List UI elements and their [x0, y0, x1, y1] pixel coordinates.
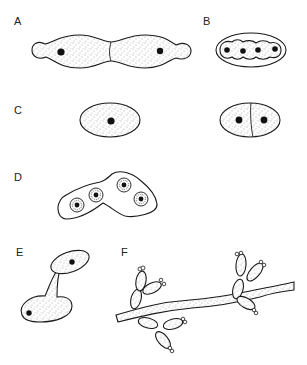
panel-a: A [14, 15, 191, 68]
dividing-cell [32, 35, 191, 68]
panel-f: F [116, 246, 294, 353]
panel-label-e: E [16, 246, 23, 258]
panel-c: C [14, 103, 280, 137]
ascospore [70, 198, 84, 212]
ascospore [117, 178, 131, 192]
panel-label-c: C [14, 104, 22, 116]
nucleus [224, 47, 230, 53]
nucleus [272, 46, 278, 52]
nucleus [236, 117, 243, 124]
panel-d: D [14, 171, 157, 219]
panel-label-f: F [121, 246, 128, 258]
conidium [129, 288, 144, 310]
nucleus [107, 117, 114, 124]
panel-label-b: B [203, 15, 210, 27]
conidium [162, 317, 184, 332]
ascospore [134, 192, 148, 206]
nucleus [255, 47, 261, 53]
nucleus [157, 48, 163, 54]
panel-label-a: A [14, 15, 22, 27]
panel-b: B [203, 15, 286, 67]
nucleus [57, 48, 64, 55]
conidium [235, 254, 247, 277]
nucleus [69, 259, 74, 264]
panel-e: E [16, 246, 92, 322]
nucleus [26, 310, 31, 315]
panel-label-d: D [14, 171, 22, 183]
nucleus [261, 117, 268, 124]
figure-canvas: A B C D [0, 0, 307, 365]
conidium [137, 316, 159, 331]
nucleus [240, 48, 246, 54]
fission-cell [220, 103, 280, 137]
ascospore [89, 188, 103, 202]
